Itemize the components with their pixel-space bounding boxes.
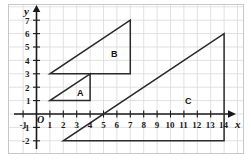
triangle-b-label: B (111, 50, 118, 59)
x-tick-14: 14 (219, 121, 228, 130)
y-axis-label: y (24, 6, 29, 17)
y-tick-6: 6 (25, 30, 30, 39)
x-tick-10: 10 (166, 121, 175, 130)
x-tick-13: 13 (206, 121, 215, 130)
x-tick-11: 11 (179, 121, 188, 130)
y-tick-5: 5 (25, 43, 30, 52)
plot-canvas (0, 0, 251, 164)
y-tick-7: 7 (25, 17, 30, 26)
x-tick-neg1: -1 (20, 121, 28, 130)
grid-lines (9, 5, 243, 153)
y-axis-arrow (33, 5, 41, 12)
x-tick-12: 12 (192, 121, 201, 130)
y-tick-4: 4 (25, 57, 30, 66)
triangle-a-label: A (77, 89, 84, 98)
x-tick-7: 7 (128, 121, 133, 130)
origin-label: O (37, 115, 44, 125)
x-axis-arrow (228, 110, 236, 118)
x-axis-label: x (235, 119, 241, 130)
y-tick-3: 3 (25, 70, 30, 79)
x-tick-2: 2 (61, 121, 66, 130)
triangle-c-label: C (185, 97, 192, 106)
coordinate-grid-figure: 7 6 5 4 3 2 1 -1 -2 O -1 1 2 3 4 5 6 7 8… (0, 0, 251, 164)
x-tick-5: 5 (101, 121, 106, 130)
y-tick-2: 2 (25, 84, 30, 93)
y-tick-1: 1 (26, 97, 31, 106)
x-tick-3: 3 (74, 121, 79, 130)
x-tick-1: 1 (48, 121, 53, 130)
y-tick-neg2: -2 (22, 137, 30, 146)
x-tick-6: 6 (115, 121, 120, 130)
x-tick-8: 8 (141, 121, 146, 130)
x-tick-4: 4 (88, 121, 93, 130)
x-tick-9: 9 (155, 121, 160, 130)
